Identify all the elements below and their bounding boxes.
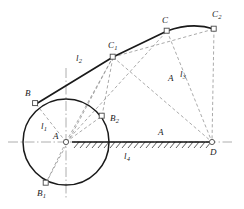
point-markers (33, 26, 217, 185)
label-length-l3: l3 (180, 70, 186, 79)
marker-B (33, 101, 38, 106)
solid-trajectory (36, 26, 214, 104)
link-B2-C1 (102, 57, 113, 116)
label-point-A: A (53, 132, 59, 141)
label-point-B2: B2 (110, 114, 119, 123)
label-point-D: D (210, 148, 217, 157)
label-point-C1: C1 (108, 41, 117, 50)
label-point-B1: B1 (37, 189, 46, 198)
label-point-B: B (25, 89, 31, 98)
marker-C2 (211, 26, 216, 31)
marker-C (164, 28, 169, 33)
link-C-D (167, 31, 212, 142)
ground-surface (72, 142, 212, 148)
label-length-l1: l1 (41, 122, 47, 131)
label-length-l4: l4 (124, 152, 130, 161)
axis-lines (8, 68, 232, 200)
label-point-C2: C2 (212, 10, 221, 19)
geometry-figure: A B B1 B2 C C1 C2 D l1 l2 l3 l4 A A (0, 0, 244, 209)
ground-hatching (74, 142, 211, 148)
label-segment-A-mid: A (158, 128, 164, 137)
figure-canvas (0, 0, 244, 209)
label-point-C: C (162, 16, 168, 25)
link-C2-D (212, 29, 214, 142)
segment-C-C2-curve (167, 26, 214, 31)
label-length-l2: l2 (76, 54, 82, 63)
link-A-B2 (66, 116, 102, 142)
segment-B-C1-C (36, 31, 167, 104)
marker-C1 (110, 54, 115, 59)
marker-D (209, 139, 214, 144)
label-segment-A-upper: A (168, 74, 174, 83)
marker-A (63, 139, 68, 144)
marker-B1 (43, 180, 48, 185)
marker-B2 (99, 113, 104, 118)
